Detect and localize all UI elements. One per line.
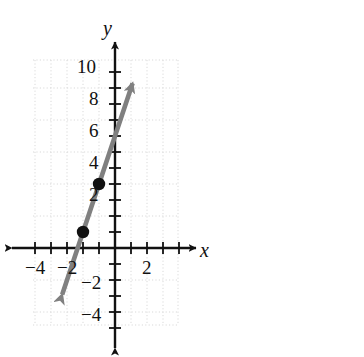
y-tick-label-10: 10 [77, 57, 96, 76]
x-axis-label: x [200, 240, 209, 260]
data-point [77, 226, 89, 238]
graph-figure: 10 8 6 4 2 −2 −4 −4 −2 2 x y [0, 0, 364, 357]
y-axis-label: y [103, 18, 112, 38]
x-tick-label-2: 2 [142, 258, 152, 277]
grid-lines [33, 60, 178, 325]
y-tick-label-minus-2: −2 [81, 273, 101, 292]
x-tick-label-minus-4: −4 [25, 258, 45, 277]
y-tick-label-8: 8 [89, 89, 99, 108]
x-tick-label-minus-2: −2 [57, 258, 77, 277]
y-tick-label-4: 4 [89, 153, 99, 172]
y-tick-label-2: 2 [89, 185, 99, 204]
coordinate-plane [0, 0, 364, 357]
y-tick-label-6: 6 [89, 121, 99, 140]
y-tick-label-minus-4: −4 [81, 305, 101, 324]
